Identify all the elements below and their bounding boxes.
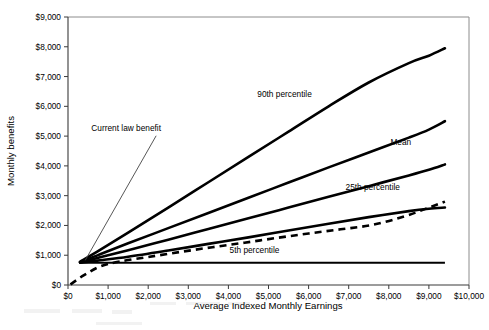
x-tick-label: $8,000 [376,291,402,301]
monthly-benefits-line-chart: $0$1,000$2,000$3,000$4,000$5,000$6,000$7… [0,0,489,330]
y-tick-label: $7,000 [36,72,62,82]
y-axis-ticks [64,17,68,285]
annotation-90th-percentile: 90th percentile [257,89,312,99]
chart-figure: $0$1,000$2,000$3,000$4,000$5,000$6,000$7… [0,0,489,330]
y-tick-label: $6,000 [36,101,62,111]
y-tick-label: $2,000 [36,220,62,230]
y-tick-label: $0 [52,280,62,290]
x-tick-label: $1,000 [95,291,121,301]
x-axis-ticks [68,285,469,289]
y-tick-label: $8,000 [36,42,62,52]
annotation-25th-percentile: 25th percentile [346,182,401,192]
annotation-mean: Mean [390,137,411,147]
x-tick-label: $0 [63,291,73,301]
x-axis-title: Average Indexed Monthly Earnings [193,300,342,311]
annotation-current-law-benefit: Current law benefit [91,123,161,133]
y-axis-tick-labels: $0$1,000$2,000$3,000$4,000$5,000$6,000$7… [36,12,62,290]
y-tick-label: $9,000 [36,12,62,22]
annotation-5th-percentile: 5th percentile [230,245,280,255]
leader-line [85,136,156,261]
series-annotations: Current law benefit90th percentileMean25… [91,89,411,255]
series-90th-percentile [80,48,445,262]
y-tick-label: $3,000 [36,191,62,201]
x-tick-label: $10,000 [454,291,484,301]
x-tick-label: $9,000 [416,291,442,301]
y-axis-title: Monthly benefits [5,116,16,186]
x-tick-label: $2,000 [136,291,162,301]
y-tick-label: $1,000 [36,250,62,260]
y-tick-label: $5,000 [36,131,62,141]
y-tick-label: $4,000 [36,161,62,171]
annotation-leader-line [85,136,156,261]
